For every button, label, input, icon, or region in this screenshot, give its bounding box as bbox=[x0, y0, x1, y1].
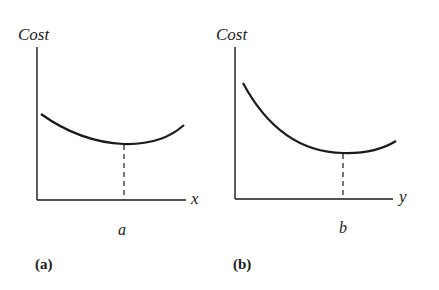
panel-a-caption: (a) bbox=[35, 257, 53, 272]
panel-a-minimum-label: a bbox=[118, 222, 126, 238]
panel-b-y-axis-label: Cost bbox=[216, 26, 247, 43]
panel-b-minimum-label: b bbox=[339, 220, 347, 236]
panel-a-plot bbox=[37, 47, 186, 200]
panel-b-caption: (b) bbox=[233, 257, 251, 272]
panel-b-plot bbox=[235, 47, 396, 199]
panel-a-x-axis-label: x bbox=[191, 190, 199, 207]
panel-a-cost-curve bbox=[41, 114, 184, 144]
panel-a-y-axis-label: Cost bbox=[18, 26, 49, 43]
panel-b-cost-curve bbox=[243, 83, 396, 153]
panel-b-x-axis-label: y bbox=[399, 188, 407, 205]
